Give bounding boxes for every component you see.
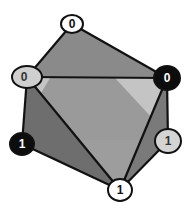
vertex-label: 1 bbox=[117, 183, 124, 197]
vertex-lower-left: 1 bbox=[10, 133, 34, 155]
vertex-upper-right: 0 bbox=[154, 66, 180, 90]
vertex-label: 0 bbox=[21, 70, 28, 84]
vertex-bottom: 1 bbox=[108, 179, 132, 201]
vertex-upper-left: 0 bbox=[12, 66, 42, 88]
vertex-label: 0 bbox=[69, 17, 76, 31]
vertex-top: 0 bbox=[61, 15, 83, 33]
octahedron-diagram: 0 0 0 1 1 1 bbox=[0, 0, 192, 220]
vertex-label: 0 bbox=[164, 71, 171, 85]
edge bbox=[27, 77, 167, 78]
vertex-lower-right: 1 bbox=[155, 129, 181, 153]
vertex-label: 1 bbox=[165, 134, 172, 148]
vertex-label: 1 bbox=[19, 137, 26, 151]
